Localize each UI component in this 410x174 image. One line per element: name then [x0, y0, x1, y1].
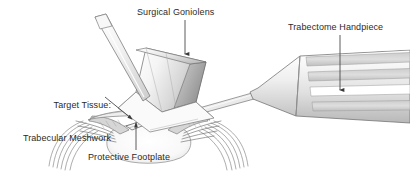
- label-target-tissue-line1: Target Tissue:: [8, 100, 111, 111]
- handpiece-nose: [250, 56, 300, 116]
- grip-rib: [312, 101, 410, 112]
- trabectome-handpiece: [250, 49, 410, 123]
- label-surgical-goniolens: Surgical Goniolens: [137, 7, 214, 18]
- label-protective-footplate: Protective Footplate: [88, 152, 170, 163]
- label-target-tissue-line2: Trabecular Meshwork: [8, 133, 111, 144]
- handle-grip-end: [95, 14, 112, 29]
- surgical-goniolens: [118, 48, 214, 132]
- medical-illustration-figure: Surgical Goniolens Trabectome Handpiece …: [0, 0, 410, 174]
- label-trabectome-handpiece: Trabectome Handpiece: [288, 22, 383, 33]
